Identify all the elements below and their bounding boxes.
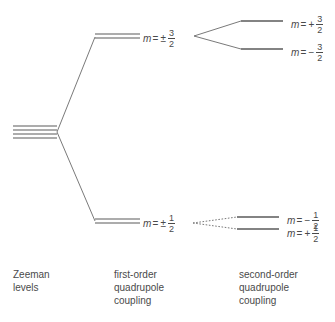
fraction-numerator: 3 xyxy=(316,43,323,52)
m-symbol: m xyxy=(291,19,300,31)
fraction: 3 2 xyxy=(168,29,175,49)
fraction-numerator: 1 xyxy=(168,214,175,223)
label-first-order-lower: m = ± 1 2 xyxy=(143,214,175,234)
fraction-denominator: 2 xyxy=(168,40,175,49)
m-symbol: m xyxy=(287,228,296,240)
fraction-denominator: 2 xyxy=(168,225,175,234)
equals-symbol: = xyxy=(301,47,307,59)
m-symbol: m xyxy=(143,218,152,230)
fraction-denominator: 2 xyxy=(316,26,323,35)
fraction: 3 2 xyxy=(316,15,323,35)
label-second-order-plus-one-half: m = + 1 2 xyxy=(287,224,319,244)
connector-lower-to-minus12 xyxy=(193,217,237,223)
connector-down xyxy=(57,132,95,221)
fraction-numerator: 1 xyxy=(312,211,319,220)
fraction-denominator: 2 xyxy=(312,235,319,244)
connector-up xyxy=(57,37,95,132)
equals-symbol: = xyxy=(301,19,307,31)
equals-symbol: = xyxy=(297,228,303,240)
fraction-numerator: 3 xyxy=(316,15,323,24)
zeeman-to-first-order-connectors xyxy=(57,37,95,221)
label-second-order-minus-three-halves: m = − 3 2 xyxy=(291,43,323,63)
fraction-denominator: 2 xyxy=(316,54,323,63)
caption-first-order-quadrupole-coupling: first-order quadrupole coupling xyxy=(114,268,164,307)
fraction-numerator: 1 xyxy=(312,224,319,233)
fraction: 1 2 xyxy=(168,214,175,234)
connector-lower-to-plus12 xyxy=(193,223,237,229)
sign-symbol: + xyxy=(304,228,310,240)
sign-symbol: ± xyxy=(160,33,166,45)
first-order-lower-level xyxy=(95,219,140,223)
label-second-order-plus-three-halves: m = + 3 2 xyxy=(291,15,323,35)
sign-symbol: − xyxy=(308,47,314,59)
caption-zeeman-levels: Zeeman levels xyxy=(13,268,50,294)
first-to-second-order-connectors-lower xyxy=(193,217,237,229)
m-symbol: m xyxy=(143,33,152,45)
equals-symbol: = xyxy=(153,33,159,45)
label-first-order-upper: m = ± 3 2 xyxy=(143,29,175,49)
second-order-levels xyxy=(237,21,283,229)
first-to-second-order-connectors-upper xyxy=(194,21,241,49)
connector-upper-to-minus32 xyxy=(194,36,241,49)
first-order-upper-level xyxy=(95,34,140,38)
caption-second-order-quadrupole-coupling: second-order quadrupole coupling xyxy=(239,268,298,307)
zeeman-level-group xyxy=(13,126,57,138)
sign-symbol: ± xyxy=(160,218,166,230)
fraction: 3 2 xyxy=(316,43,323,63)
sign-symbol: + xyxy=(308,19,314,31)
fraction: 1 2 xyxy=(312,224,319,244)
m-symbol: m xyxy=(291,47,300,59)
fraction-numerator: 3 xyxy=(168,29,175,38)
equals-symbol: = xyxy=(153,218,159,230)
connector-upper-to-plus32 xyxy=(194,21,241,36)
